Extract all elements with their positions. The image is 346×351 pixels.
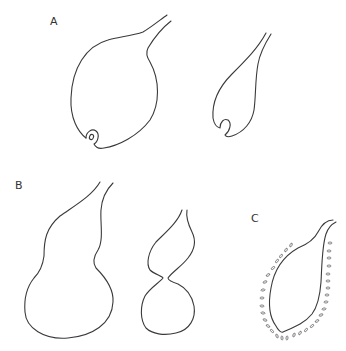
- panel-label-a: A: [50, 15, 58, 28]
- panel-label-c: C: [251, 212, 259, 225]
- diagram-canvas: A B C: [0, 0, 346, 351]
- flask-c-outline: [270, 220, 336, 332]
- flask-a1-outline: [71, 15, 167, 138]
- panel-label-b: B: [15, 179, 23, 192]
- panel-a: A: [50, 15, 271, 148]
- panel-b: B: [15, 179, 195, 338]
- gourd-b2-outline: [141, 210, 194, 334]
- flask-a2-outline: [213, 33, 271, 137]
- flask-a1-curl: [86, 21, 171, 148]
- flask-a1-nucleus: [89, 134, 95, 140]
- gourd-b1-outline: [25, 182, 113, 338]
- panel-c: C: [251, 212, 336, 340]
